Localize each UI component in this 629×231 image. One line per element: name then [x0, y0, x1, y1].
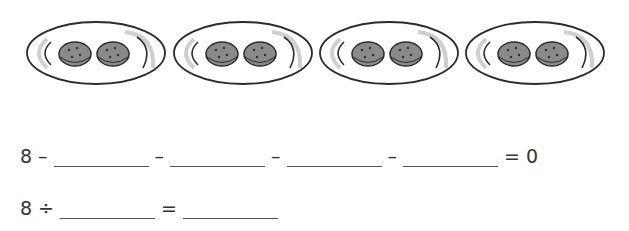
equals-sign: =: [504, 145, 520, 167]
minus-sign: –: [271, 145, 281, 167]
divisor-blank[interactable]: [60, 200, 155, 219]
plate-with-two-cookies-icon: [172, 20, 314, 86]
plate-with-two-cookies-icon: [318, 20, 460, 86]
plate-with-two-cookies-icon: [25, 20, 167, 86]
answer-blank-4[interactable]: [403, 148, 498, 167]
equals-sign: =: [161, 197, 177, 219]
division-equation: 8 ÷ =: [20, 197, 284, 219]
plate-with-two-cookies-icon: [464, 20, 606, 86]
answer-blank-1[interactable]: [54, 148, 149, 167]
minus-sign: –: [155, 145, 165, 167]
minus-sign: –: [38, 145, 48, 167]
result-value: 0: [526, 145, 538, 167]
plate-3: [318, 20, 460, 86]
subtraction-equation: 8 – – – – = 0: [20, 145, 538, 167]
cookie-plates-illustration: [0, 0, 629, 110]
plate-2: [172, 20, 314, 86]
minus-sign: –: [388, 145, 398, 167]
answer-blank-3[interactable]: [287, 148, 382, 167]
divide-sign: ÷: [38, 197, 54, 219]
start-number: 8: [20, 145, 32, 167]
quotient-blank[interactable]: [183, 200, 278, 219]
answer-blank-2[interactable]: [170, 148, 265, 167]
plate-4: [464, 20, 606, 86]
start-number: 8: [20, 197, 32, 219]
plate-1: [25, 20, 167, 86]
